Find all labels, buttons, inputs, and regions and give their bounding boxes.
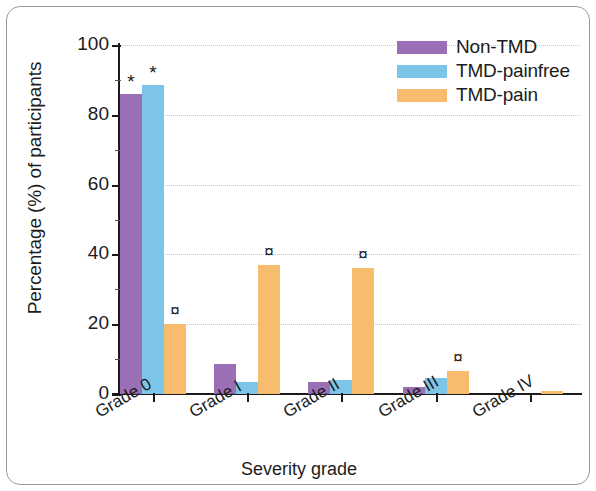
figure-card: Percentage (%) of participants 020406080… — [6, 6, 590, 485]
legend-label: TMD-pain — [456, 84, 538, 106]
chart-legend: Non-TMDTMD-painfreeTMD-pain — [397, 35, 587, 107]
significance-marker: ¤ — [258, 243, 280, 260]
bar — [164, 324, 186, 394]
x-axis-title: Severity grade — [7, 459, 591, 480]
bar — [352, 268, 374, 394]
bar — [120, 94, 142, 394]
legend-item: TMD-painfree — [397, 59, 587, 83]
legend-item: Non-TMD — [397, 35, 587, 59]
bar — [447, 371, 469, 394]
y-axis-tick-labels: 020406080100 — [39, 7, 109, 427]
significance-marker: ¤ — [164, 302, 186, 319]
x-axis-tick — [341, 393, 343, 402]
y-axis-tick-label: 40 — [49, 242, 109, 264]
bar — [258, 265, 280, 394]
y-axis-tick — [112, 45, 121, 47]
x-axis-tick — [530, 393, 532, 402]
y-axis-tick-label: 60 — [49, 173, 109, 195]
y-axis-tick-label: 20 — [49, 312, 109, 334]
legend-label: Non-TMD — [456, 36, 537, 58]
legend-swatch — [397, 65, 447, 78]
gridline — [120, 324, 580, 325]
bar — [541, 391, 563, 394]
legend-swatch — [397, 41, 447, 54]
gridline — [120, 254, 580, 255]
legend-swatch — [397, 89, 447, 102]
x-axis-tick — [247, 393, 249, 402]
significance-marker: * — [142, 63, 164, 82]
y-axis-tick-label: 100 — [49, 33, 109, 55]
y-axis-tick-label: 80 — [49, 103, 109, 125]
gridline — [120, 185, 580, 186]
significance-marker: * — [120, 72, 142, 91]
significance-marker: ¤ — [352, 246, 374, 263]
gridline — [120, 115, 580, 116]
legend-label: TMD-painfree — [456, 60, 570, 82]
bar — [142, 85, 164, 394]
x-axis-tick — [153, 393, 155, 402]
x-axis-tick — [436, 393, 438, 402]
significance-marker: ¤ — [447, 349, 469, 366]
legend-item: TMD-pain — [397, 83, 587, 107]
